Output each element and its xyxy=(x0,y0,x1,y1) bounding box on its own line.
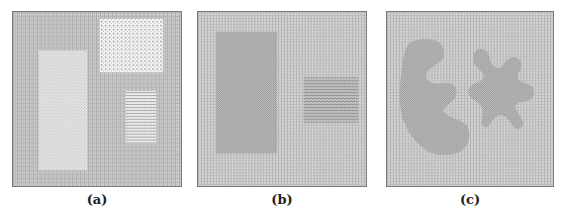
caption-a: (a) xyxy=(77,192,117,207)
dotted-white-rectangle xyxy=(100,19,163,72)
panel-a xyxy=(12,11,182,187)
caption-c: (c) xyxy=(450,192,490,207)
caption-b: (b) xyxy=(262,192,302,207)
panel-a-texture-image xyxy=(13,12,181,186)
striped-checker-rectangle xyxy=(304,77,358,122)
panel-c-texture-image xyxy=(387,12,553,186)
checker-tall-rectangle xyxy=(216,32,277,154)
horizontal-line-rectangle xyxy=(126,91,157,143)
panel-b xyxy=(197,11,367,187)
stipple-tall-rectangle xyxy=(39,51,87,171)
panel-b-texture-image xyxy=(198,12,366,186)
panel-c xyxy=(386,11,554,187)
